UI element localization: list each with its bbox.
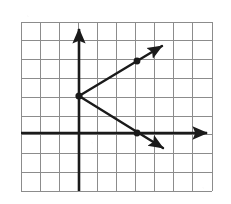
vertex-point — [75, 92, 82, 99]
graph-figure — [0, 0, 231, 204]
figure-background — [0, 0, 231, 204]
lower-ray-point — [134, 130, 141, 137]
upper-ray-point — [134, 58, 141, 65]
coordinate-plane-svg — [0, 0, 231, 204]
